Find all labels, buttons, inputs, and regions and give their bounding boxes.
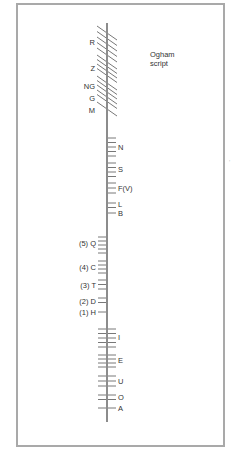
letter-label: (3) T: [80, 281, 96, 290]
letter-label: (5) Q: [79, 239, 96, 248]
letter-label: N: [118, 143, 123, 152]
letter-label: L: [118, 200, 122, 209]
letter-label: (4) C: [79, 263, 96, 272]
letter-label: (1) H: [79, 308, 96, 317]
letter-label: R: [90, 38, 96, 47]
ogham-diagram: RZNGGMNSF(V)LB(5) Q(4) C(3) T(2) D(1) HI…: [0, 0, 236, 462]
letter-label: U: [118, 377, 123, 386]
letter-label: M: [89, 106, 95, 115]
letter-label: B: [118, 209, 123, 218]
diagram-title-line1: Ogham: [150, 50, 175, 59]
letter-label: Z: [90, 64, 95, 73]
letter-label: (2) D: [79, 297, 96, 306]
letter-label: G: [89, 94, 95, 103]
letter-label: I: [118, 333, 120, 342]
stray-mark: ʼ: [229, 159, 230, 165]
letter-label: F(V): [118, 184, 133, 193]
letter-label: E: [118, 356, 123, 365]
diagram-title-line2: script: [150, 59, 169, 68]
letter-labels: RZNGGMNSF(V)LB(5) Q(4) C(3) T(2) D(1) HI…: [79, 38, 133, 413]
letter-label: A: [118, 404, 123, 413]
letter-label: S: [118, 165, 123, 174]
letter-label: O: [118, 393, 124, 402]
letter-label: NG: [84, 82, 95, 91]
